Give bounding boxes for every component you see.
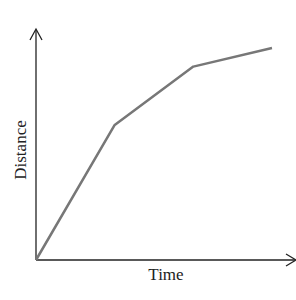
x-axis-label: Time [0, 265, 296, 285]
y-axis-label: Distance [11, 115, 31, 185]
chart-canvas [0, 0, 296, 300]
data-line [36, 48, 272, 260]
